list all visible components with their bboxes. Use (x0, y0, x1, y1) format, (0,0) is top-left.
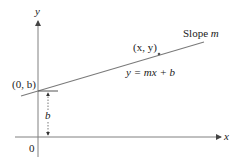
origin-label: 0 (29, 142, 35, 154)
y-axis-label: y (34, 5, 40, 17)
intercept-label: (0, b) (12, 78, 36, 91)
slope-intercept-diagram: y x 0 (0, b) (x, y) y = mx + b Slope m b (0, 0, 230, 157)
slope-label: Slope m (183, 27, 219, 39)
intercept-label-text: (0, b) (12, 78, 36, 91)
general-point-label: (x, y) (133, 41, 157, 54)
slope-label-prefix: Slope (183, 27, 211, 39)
x-axis-label: x (223, 130, 229, 142)
equation-label: y = mx + b (125, 66, 176, 78)
general-point-marker (158, 53, 161, 56)
slope-line (21, 42, 204, 96)
slope-symbol: m (211, 27, 219, 39)
b-dimension-label: b (45, 109, 51, 121)
